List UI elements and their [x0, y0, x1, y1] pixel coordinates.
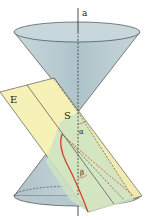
angle-alpha-label: α	[79, 128, 84, 136]
plane-label: E	[10, 94, 17, 105]
angle-beta-label: β	[80, 169, 84, 177]
double-cone-diagram: a E S α β	[0, 0, 148, 220]
apex-label: S	[64, 110, 71, 121]
axis-label: a	[82, 8, 88, 18]
